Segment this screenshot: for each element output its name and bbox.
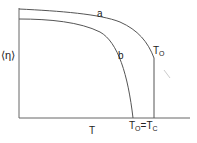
faint-mark [164, 70, 170, 78]
phase-transition-diagram [0, 0, 197, 143]
t0-label: TO [153, 46, 165, 57]
curve-a-label: a [97, 9, 103, 19]
curve-b [19, 19, 133, 118]
curve-a [19, 9, 154, 118]
x-axis-label: T [89, 126, 95, 136]
curve-b-label: b [118, 51, 124, 61]
y-axis-label: ⟨η⟩ [1, 50, 15, 61]
t0-equals-tc-label: TO=TC [129, 121, 158, 132]
